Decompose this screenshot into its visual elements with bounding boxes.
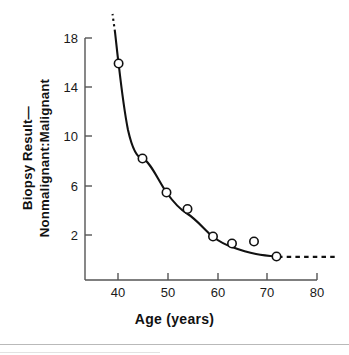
chart-figure: Biopsy Result— Nonmalignant:Malignant (0, 0, 349, 355)
data-point (250, 237, 258, 245)
data-point (114, 59, 122, 67)
fitted-curve (115, 32, 276, 257)
data-point (138, 154, 146, 162)
x-tick-label-40: 40 (101, 285, 135, 300)
y-tick-label-18: 18 (44, 31, 78, 46)
y-tick-label-14: 14 (44, 80, 78, 95)
data-point (272, 252, 280, 260)
x-axis (85, 273, 317, 280)
data-point (209, 232, 217, 240)
data-point (183, 205, 191, 213)
y-tick-label-10: 10 (44, 129, 78, 144)
x-tick-label-70: 70 (250, 285, 284, 300)
plot-area (0, 0, 349, 355)
upper-dashed-extension (113, 14, 116, 32)
y-tick-label-2: 2 (44, 228, 78, 243)
x-tick-label-50: 50 (151, 285, 185, 300)
data-point (162, 188, 170, 196)
data-points (114, 59, 280, 260)
footer-rule-secondary (0, 352, 160, 353)
y-axis (85, 38, 92, 280)
data-point (228, 239, 236, 247)
x-tick-label-80: 80 (300, 285, 334, 300)
y-tick-label-6: 6 (44, 179, 78, 194)
footer-rule (0, 344, 349, 345)
x-tick-label-60: 60 (201, 285, 235, 300)
x-axis-title: Age (years) (0, 311, 349, 327)
